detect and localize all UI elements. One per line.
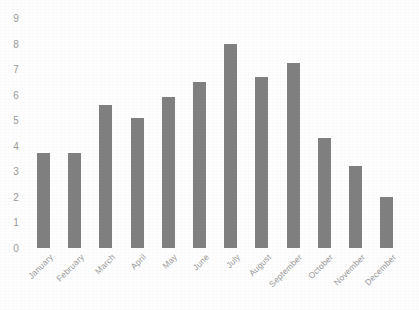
y-axis-tick-label: 3 — [13, 166, 19, 177]
x-axis-tick-label: November — [331, 252, 366, 287]
bar — [380, 197, 393, 248]
x-axis-tick-label: April — [129, 252, 148, 271]
bar — [287, 63, 300, 248]
bar — [99, 105, 112, 248]
bar — [193, 82, 206, 248]
x-axis-tick-label: March — [93, 252, 117, 276]
x-axis-tick-label: August — [247, 252, 273, 278]
y-axis-tick-label: 6 — [13, 89, 19, 100]
y-axis-tick-label: 1 — [13, 217, 19, 228]
bar — [349, 166, 362, 248]
y-axis-tick-label: 2 — [13, 191, 19, 202]
y-axis-tick-label: 0 — [13, 243, 19, 254]
x-axis-tick-label: May — [161, 252, 180, 271]
x-axis-tick-label: June — [190, 252, 210, 272]
bar — [224, 44, 237, 248]
y-axis-tick-label: 4 — [13, 140, 19, 151]
bar-chart: 0123456789 JanuaryFebruaryMarchAprilMayJ… — [0, 0, 419, 310]
x-axis-tick-label: January — [26, 252, 55, 281]
bar — [255, 77, 268, 248]
x-axis-tick-label: February — [54, 252, 86, 284]
bar — [131, 118, 144, 248]
x-axis-tick-label: July — [224, 252, 242, 270]
y-axis-tick-label: 9 — [13, 13, 19, 24]
x-axis-tick-label: December — [362, 252, 397, 287]
x-axis-tick-label: October — [306, 252, 335, 281]
bar — [37, 153, 50, 248]
x-axis-tick-label: September — [267, 252, 304, 289]
bar — [162, 97, 175, 248]
plot-area: JanuaryFebruaryMarchAprilMayJuneJulyAugu… — [28, 0, 419, 310]
y-axis: 0123456789 — [0, 0, 28, 310]
bar — [68, 153, 81, 248]
bar — [318, 138, 331, 248]
y-axis-tick-label: 7 — [13, 64, 19, 75]
y-axis-tick-label: 5 — [13, 115, 19, 126]
y-axis-tick-label: 8 — [13, 38, 19, 49]
